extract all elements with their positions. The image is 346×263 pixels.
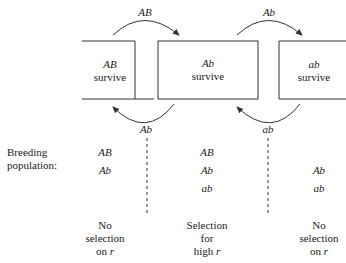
pop-2-AB: AB [192,146,222,159]
caption-middle-line1: Selection [177,219,237,232]
caption-middle-line2: for [177,232,237,245]
caption-right-var: r [324,245,328,257]
pop-3-ab: ab [304,182,334,195]
caption-right: No selection on r [289,219,346,258]
caption-right-prefix: on [310,245,324,257]
arrow-top-label-AB: AB [132,6,158,19]
arrow-bottom-ab [237,104,300,123]
box-2-genotype: Ab [178,57,238,70]
caption-right-line2: selection [289,232,346,245]
caption-middle: Selection for high r [177,219,237,258]
box-1-label: survive [88,71,132,84]
caption-middle-var: r [216,245,220,257]
caption-left-line2: selection [75,232,135,245]
box-3-label: survive [288,71,340,84]
caption-left-var: r [110,245,114,257]
arrow-bottom-Ab [113,104,174,123]
caption-middle-prefix: high [194,245,216,257]
caption-right-line3: on r [289,245,346,258]
caption-left-line3: on r [75,245,135,258]
box-2-label: survive [178,70,238,83]
breeding-population-label: Breeding population: [7,146,57,172]
box-2-text: Ab survive [178,57,238,83]
arrow-bottom-label-ab: ab [255,123,281,136]
pop-2-Ab: Ab [192,164,222,177]
pop-3-Ab: Ab [304,164,334,177]
pop-1-Ab: Ab [90,164,120,177]
breeding-label-line1: Breeding [7,146,57,159]
caption-left-prefix: on [96,245,110,257]
pop-2-ab: ab [192,182,222,195]
box-3-genotype: ab [288,58,340,71]
arrow-top-label-Ab: Ab [256,6,282,19]
caption-left-line1: No [75,219,135,232]
box-1-genotype: AB [88,58,132,71]
caption-middle-line3: high r [177,245,237,258]
caption-right-line1: No [289,219,346,232]
caption-left: No selection on r [75,219,135,258]
arrow-top-Ab [237,21,302,36]
box-1-text: AB survive [88,58,132,84]
pop-1-AB: AB [90,146,120,159]
breeding-label-line2: population: [7,159,57,172]
box-3-text: ab survive [288,58,340,84]
arrow-top-AB [113,21,179,36]
arrow-bottom-label-Ab: Ab [133,123,159,136]
